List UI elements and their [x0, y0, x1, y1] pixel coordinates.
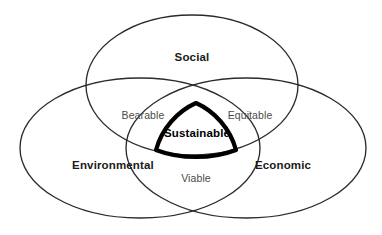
set-label-social: Social [175, 51, 210, 63]
intersection-label-sustainable: Sustainable [164, 127, 230, 139]
venn-diagram-canvas: Social Environmental Economic Bearable E… [0, 0, 382, 235]
venn-diagram-graphic [0, 0, 382, 235]
intersection-label-equitable: Equitable [228, 110, 273, 121]
set-label-environmental: Environmental [72, 159, 154, 171]
intersection-label-viable: Viable [181, 173, 211, 184]
intersection-label-bearable: Bearable [122, 110, 165, 121]
set-label-economic: Economic [255, 159, 311, 171]
